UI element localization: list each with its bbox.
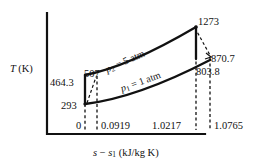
ts-diagram-figure: T (K) s − s1 (kJ/kg K) 1273 870.7 803.8 … — [0, 0, 259, 168]
y-axis-symbol: T — [10, 63, 16, 74]
x-axis-s1-subscript: 1 — [112, 150, 116, 159]
x-axis-minus: − — [100, 147, 106, 158]
value-label-507: 507 — [84, 69, 100, 80]
x-tick-label-0: 0 — [76, 121, 81, 132]
x-axis-symbol-s: s — [93, 147, 97, 158]
leader-line-left-icon — [87, 77, 96, 103]
value-label-464-3: 464.3 — [50, 78, 74, 89]
x-tick-label-1-0217: 1.0217 — [152, 121, 181, 132]
x-axis-unit: (kJ/kg K) — [119, 147, 159, 158]
y-axis-title: T (K) — [10, 64, 33, 75]
value-label-1273: 1273 — [198, 17, 219, 28]
y-axis-unit: (K) — [18, 63, 33, 74]
value-label-803-8: 803.8 — [196, 67, 220, 78]
x-tick-label-0-0919: 0.0919 — [101, 121, 130, 132]
value-label-293: 293 — [61, 101, 77, 112]
x-tick-label-1-0765: 1.0765 — [214, 121, 243, 132]
leader-line-right-icon — [195, 28, 211, 57]
x-axis-title: s − s1 (kJ/kg K) — [93, 148, 159, 159]
state-point-293 — [83, 102, 86, 105]
value-label-870-7: 870.7 — [211, 54, 235, 65]
